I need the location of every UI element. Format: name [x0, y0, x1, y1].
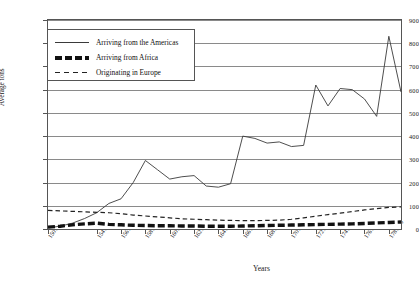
y-axis-title: Average tons: [0, 68, 6, 106]
legend-swatch-africa-icon: [55, 53, 89, 62]
x-axis-title-text: Years: [253, 264, 270, 273]
chart-container: Average tons 010020030040050060070080090…: [0, 0, 419, 285]
legend-swatch-americas-icon: [55, 38, 89, 47]
legend-item-americas: Arriving from the Americas: [55, 35, 188, 50]
legend: Arriving from the Americas Arriving from…: [47, 29, 195, 81]
legend-item-africa: Arriving from Africa: [55, 50, 188, 65]
series-line: [48, 222, 401, 227]
legend-item-europe: Originating in Europe: [55, 65, 188, 80]
legend-label-americas: Arriving from the Americas: [96, 38, 178, 47]
legend-label-europe: Originating in Europe: [96, 68, 161, 77]
x-axis-title: Years: [0, 264, 419, 273]
legend-label-africa: Arriving from Africa: [96, 53, 158, 62]
legend-swatch-europe-icon: [55, 68, 89, 77]
